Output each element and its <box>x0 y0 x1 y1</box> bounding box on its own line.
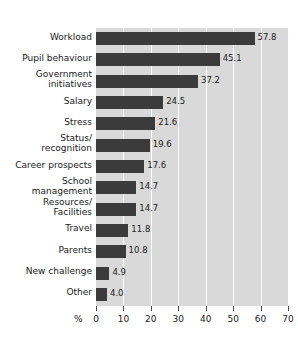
x-tick-label-30: 30 <box>166 314 190 324</box>
bar-value-label: 57.8 <box>258 31 277 44</box>
bar <box>96 160 144 173</box>
x-tick-label-40: 40 <box>194 314 218 324</box>
x-tick-40 <box>206 306 207 311</box>
category-label: Parents <box>0 245 92 255</box>
x-tick-50 <box>233 306 234 311</box>
bar-value-label: 14.7 <box>139 180 158 193</box>
category-label: Resources/ Facilities <box>0 197 92 217</box>
category-label: Salary <box>0 96 92 106</box>
category-label: New challenge <box>0 266 92 276</box>
bar-row: 11.8 <box>96 220 288 241</box>
bar-row: 4.0 <box>96 284 288 305</box>
bar-value-label: 11.8 <box>131 223 150 236</box>
bar-value-label: 24.5 <box>166 95 185 108</box>
plot-area: 57.845.137.224.521.619.617.614.714.711.8… <box>96 28 288 305</box>
category-label: Government initiatives <box>0 69 92 89</box>
bar-value-label: 14.7 <box>139 202 158 215</box>
bar <box>96 32 255 45</box>
bar-row: 14.7 <box>96 177 288 198</box>
bar-row: 24.5 <box>96 92 288 113</box>
x-axis-line <box>96 305 288 306</box>
bar-row: 21.6 <box>96 113 288 134</box>
bar-value-label: 19.6 <box>153 138 172 151</box>
category-label: Stress <box>0 117 92 127</box>
x-tick-30 <box>178 306 179 311</box>
category-label: Pupil behaviour <box>0 53 92 63</box>
bar-value-label: 21.6 <box>158 116 177 129</box>
category-label: School management <box>0 176 92 196</box>
bar-value-label: 37.2 <box>201 74 220 87</box>
bar-value-label: 4.9 <box>112 266 126 279</box>
bar-row: 45.1 <box>96 49 288 70</box>
x-tick-10 <box>123 306 124 311</box>
bar <box>96 75 198 88</box>
bar-row: 19.6 <box>96 135 288 156</box>
bar <box>96 181 136 194</box>
bar-value-label: 4.0 <box>110 287 124 300</box>
category-label: Status/ recognition <box>0 133 92 153</box>
category-label: Workload <box>0 32 92 42</box>
cropped-title-remnant <box>40 0 190 5</box>
bar <box>96 96 163 109</box>
bar-value-label: 10.8 <box>129 244 148 257</box>
bar-row: 14.7 <box>96 199 288 220</box>
category-label: Other <box>0 287 92 297</box>
x-axis-unit-label: % <box>74 314 83 324</box>
x-tick-70 <box>288 306 289 311</box>
x-tick-label-70: 70 <box>276 314 298 324</box>
bar <box>96 224 128 237</box>
bar <box>96 53 220 66</box>
x-tick-label-0: 0 <box>84 314 108 324</box>
bar-row: 10.8 <box>96 241 288 262</box>
bar-value-label: 17.6 <box>147 159 166 172</box>
x-tick-label-50: 50 <box>221 314 245 324</box>
bar-row: 57.8 <box>96 28 288 49</box>
x-tick-label-60: 60 <box>249 314 273 324</box>
bar <box>96 288 107 301</box>
bar <box>96 203 136 216</box>
x-tick-0 <box>96 306 97 311</box>
x-tick-label-20: 20 <box>139 314 163 324</box>
category-label: Travel <box>0 223 92 233</box>
bar-row: 37.2 <box>96 71 288 92</box>
bar-row: 17.6 <box>96 156 288 177</box>
bar-chart-figure: 57.845.137.224.521.619.617.614.714.711.8… <box>0 0 298 343</box>
x-tick-label-10: 10 <box>111 314 135 324</box>
gridline-70 <box>288 28 289 305</box>
bar <box>96 117 155 130</box>
category-label: Career prospects <box>0 160 92 170</box>
bar-row: 4.9 <box>96 263 288 284</box>
bar-value-label: 45.1 <box>223 52 242 65</box>
x-tick-20 <box>151 306 152 311</box>
bar <box>96 139 150 152</box>
bar <box>96 245 126 258</box>
bar <box>96 267 109 280</box>
x-tick-60 <box>261 306 262 311</box>
